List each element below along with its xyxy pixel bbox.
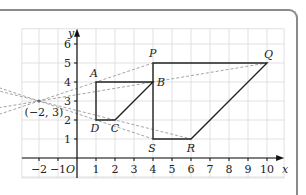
x-tick-label: 6 xyxy=(188,163,195,176)
x-tick-label: 10 xyxy=(260,163,274,176)
vertex-label-p: P xyxy=(148,47,157,60)
y-tick-label: 5 xyxy=(64,57,71,70)
x-tick-label: 5 xyxy=(169,163,176,176)
x-axis-arrow-icon xyxy=(276,155,284,161)
vertex-label-c: C xyxy=(111,122,120,135)
x-tick-label: 4 xyxy=(150,163,157,176)
y-tick-label: 3 xyxy=(64,95,71,108)
centre-point xyxy=(37,99,40,102)
x-tick-label: 7 xyxy=(207,163,214,176)
x-tick-label: 1 xyxy=(93,163,100,176)
y-tick-label: 1 xyxy=(64,133,71,146)
x-axis-label: x xyxy=(282,163,289,176)
y-axis-arrow-icon xyxy=(74,29,80,37)
x-tick-label: −1 xyxy=(50,163,66,176)
centre-label: (−2, 3) xyxy=(25,106,64,119)
vertex-label-s: S xyxy=(148,142,156,155)
y-axis-label: y xyxy=(67,27,75,40)
x-tick-label: 2 xyxy=(112,163,119,176)
y-tick-label: 6 xyxy=(64,38,71,51)
origin-label: O xyxy=(66,163,75,176)
vertex-label-r: R xyxy=(186,142,195,155)
x-tick-label: 8 xyxy=(226,163,233,176)
vertex-label-d: D xyxy=(90,122,100,135)
x-tick-label: 3 xyxy=(131,163,138,176)
vertex-label-a: A xyxy=(89,67,98,80)
x-tick-label: 9 xyxy=(245,163,252,176)
y-tick-label: 2 xyxy=(64,114,71,127)
vertex-label-q: Q xyxy=(264,48,273,61)
y-tick-label: 4 xyxy=(64,76,71,89)
vertex-label-b: B xyxy=(156,76,165,89)
enlargement-diagram: −2−112345678910123456OxyABCDPQRS(−2, 3) xyxy=(0,0,306,195)
x-tick-label: −2 xyxy=(31,163,47,176)
